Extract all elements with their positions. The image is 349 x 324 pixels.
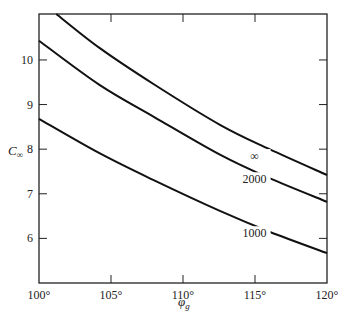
- y-tick-label: 10: [21, 53, 33, 67]
- y-tick-label: 6: [27, 231, 33, 245]
- curve-2000: [39, 41, 327, 202]
- chart: 100°105°110°115°120°678910 ∞20001000 C∞ …: [0, 0, 349, 324]
- curve-label-∞: ∞: [250, 149, 259, 163]
- curves: [39, 14, 327, 253]
- plot-frame: [39, 14, 327, 283]
- x-tick-label: 120°: [316, 288, 339, 302]
- x-tick-label: 100°: [28, 288, 51, 302]
- curve-1000: [39, 119, 327, 253]
- curve-label-1000: 1000: [243, 226, 267, 240]
- y-tick-label: 9: [27, 98, 33, 112]
- curve-label-2000: 2000: [243, 172, 267, 186]
- y-tick-label: 7: [27, 187, 33, 201]
- y-axis-title: C∞: [8, 143, 23, 160]
- y-tick-label: 8: [27, 142, 33, 156]
- x-tick-label: 105°: [100, 288, 123, 302]
- curve-labels: ∞20001000: [239, 149, 271, 240]
- x-tick-label: 115°: [244, 288, 267, 302]
